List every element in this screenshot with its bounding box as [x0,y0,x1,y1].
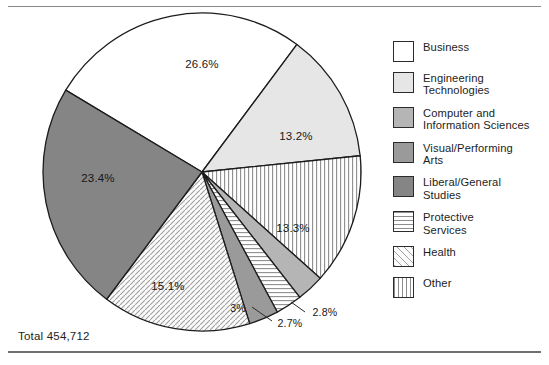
legend-swatch [393,41,414,62]
legend-item: EngineeringTechnologies [393,71,543,97]
slice-value-label: 2.7% [278,317,303,329]
slice-value-label: 13.2% [279,130,313,142]
slice-value-label: 13.3% [276,222,310,234]
pie-chart-figure: 26.6%13.2%13.3%2.8%2.7%3%15.1%23.4% Busi… [0,0,549,365]
legend-item-label: Business [423,40,469,53]
legend: BusinessEngineeringTechnologiesComputer … [393,40,543,307]
legend-item-label: ProtectiveServices [423,210,474,236]
slice-value-label: 3% [230,302,246,314]
legend-swatch [393,72,414,93]
legend-swatch [393,142,414,163]
legend-swatch [393,107,414,128]
legend-item: Health [393,245,543,267]
legend-item-label: Other [423,276,451,289]
slice-value-label: 2.8% [313,306,338,318]
legend-item: Liberal/GeneralStudies [393,175,543,201]
legend-item: Other [393,276,543,298]
legend-item: ProtectiveServices [393,210,543,236]
legend-swatch [393,246,414,267]
total-caption: Total 454,712 [18,330,90,342]
legend-item-label: Visual/PerformingArts [423,141,513,167]
legend-item: Business [393,40,543,62]
legend-swatch [393,211,414,232]
leader-line-cis [291,302,305,312]
legend-swatch [393,176,414,197]
slice-value-label: 15.1% [151,280,185,292]
legend-item-label: EngineeringTechnologies [423,71,490,97]
legend-swatch [393,277,414,298]
slice-value-label: 26.6% [185,58,219,70]
slice-value-label: 23.4% [81,172,115,184]
legend-item: Computer andInformation Sciences [393,106,543,132]
legend-item-label: Liberal/GeneralStudies [423,175,501,201]
bottom-rule [8,351,541,353]
pie-svg: 26.6%13.2%13.3%2.8%2.7%3%15.1%23.4% [0,0,380,345]
pie-area: 26.6%13.2%13.3%2.8%2.7%3%15.1%23.4% [0,0,380,345]
legend-item-label: Health [423,245,456,258]
legend-item: Visual/PerformingArts [393,141,543,167]
legend-item-label: Computer andInformation Sciences [423,106,529,132]
